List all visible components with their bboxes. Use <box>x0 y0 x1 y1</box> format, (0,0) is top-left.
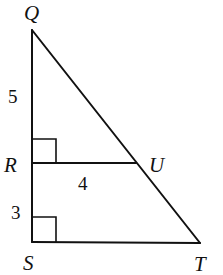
length-label-RU: 4 <box>78 173 88 194</box>
right-angle-marker-R <box>32 139 56 163</box>
vertex-label-Q: Q <box>24 1 39 25</box>
vertex-label-U: U <box>149 153 166 177</box>
length-label-QR: 5 <box>8 86 18 107</box>
segment-QT <box>32 30 200 243</box>
right-angle-marker-S <box>32 217 56 242</box>
length-label-RS: 3 <box>11 202 21 223</box>
vertex-label-S: S <box>23 251 34 275</box>
vertex-label-R: R <box>3 153 17 177</box>
segment-ST <box>32 242 200 243</box>
triangle-diagram: Q R U S T 5 4 3 <box>0 0 223 275</box>
vertex-label-T: T <box>194 252 207 275</box>
